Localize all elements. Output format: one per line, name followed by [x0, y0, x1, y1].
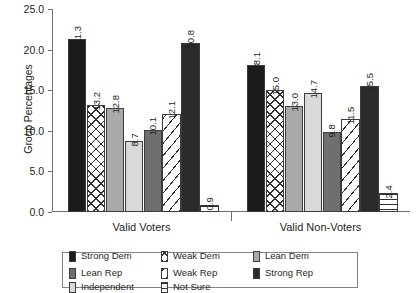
- bar: [125, 141, 143, 212]
- legend-swatch-icon: [69, 282, 76, 293]
- bar: [68, 39, 86, 212]
- bar-value-label: 20.8: [186, 30, 196, 49]
- bar: [181, 43, 199, 212]
- bar-value-label: 15.0: [270, 77, 280, 96]
- y-axis-tick-label: 5.0: [29, 166, 44, 177]
- bar: [323, 132, 341, 212]
- bar-value-label: 21.3: [72, 26, 82, 45]
- bar-value-label: 2.4: [384, 185, 394, 198]
- y-axis-tick-mark: [48, 212, 52, 213]
- legend-item: Lean Rep: [69, 265, 161, 282]
- bar: [285, 106, 303, 212]
- legend-label: Independent: [81, 282, 134, 292]
- legend-label: Strong Rep: [265, 268, 313, 278]
- group-separator: [231, 212, 232, 221]
- legend-label: Weak Rep: [173, 268, 217, 278]
- legend-item: Weak Rep: [161, 265, 253, 282]
- legend-label: Lean Dem: [265, 251, 309, 261]
- bar-value-label: 18.1: [251, 52, 261, 71]
- y-axis-tick-label: 0.0: [29, 207, 44, 218]
- bar-value-label: 0.9: [205, 197, 215, 210]
- bar: [106, 108, 124, 212]
- bars-layer: 21.313.212.88.710.112.120.80.918.115.013…: [52, 9, 410, 212]
- y-axis-tick-label: 10.0: [24, 126, 44, 137]
- legend-swatch-icon: [161, 251, 168, 262]
- bar: [162, 114, 180, 212]
- legend-swatch-icon: [253, 251, 260, 262]
- chart-legend: Strong DemWeak DemLean DemLean RepWeak R…: [62, 252, 358, 288]
- legend-item: Strong Dem: [69, 248, 161, 265]
- y-axis-tick-label: 20.0: [24, 44, 44, 55]
- bar-value-label: 15.5: [365, 73, 375, 92]
- bar: [247, 65, 265, 212]
- bar-value-label: 12.1: [167, 101, 177, 120]
- plot-area: 21.313.212.88.710.112.120.80.918.115.013…: [52, 9, 410, 212]
- legend-item: Independent: [69, 282, 161, 293]
- y-axis-tick-label: 25.0: [24, 4, 44, 15]
- legend-swatch-icon: [69, 268, 76, 279]
- bar-value-label: 8.7: [129, 134, 139, 147]
- bar-value-label: 11.5: [346, 106, 356, 124]
- legend-label: Lean Rep: [81, 268, 122, 278]
- bar: [144, 130, 162, 212]
- bar-value-label: 10.1: [148, 117, 158, 136]
- legend-swatch-icon: [161, 282, 168, 293]
- y-axis-tick-label: 15.0: [24, 85, 44, 96]
- bar-value-label: 9.8: [327, 125, 337, 138]
- bar: [304, 93, 322, 212]
- legend-item: Weak Dem: [161, 248, 253, 265]
- legend-label: Strong Dem: [81, 251, 132, 261]
- x-axis-group-label: Valid Voters: [52, 221, 231, 233]
- legend-swatch-icon: [161, 268, 168, 279]
- bar-value-label: 12.8: [110, 95, 120, 114]
- bar-chart: Group Percentages 0.05.010.015.020.025.0…: [0, 0, 418, 293]
- legend-swatch-icon: [69, 251, 76, 262]
- legend-swatch-icon: [253, 268, 260, 279]
- y-axis-ticks: 0.05.010.015.020.025.0: [0, 0, 48, 212]
- legend-item: Lean Dem: [253, 248, 363, 265]
- bar-value-label: 13.2: [91, 92, 101, 111]
- bar: [360, 86, 378, 212]
- legend-item: Not Sure: [161, 282, 253, 293]
- legend-label: Not Sure: [173, 282, 211, 292]
- bar-value-label: 13.0: [289, 93, 299, 112]
- bar: [266, 90, 284, 212]
- bar-value-label: 14.7: [308, 80, 318, 99]
- x-axis-group-label: Valid Non-Voters: [231, 221, 410, 233]
- bar: [341, 119, 359, 212]
- legend-item: Strong Rep: [253, 265, 363, 282]
- legend-label: Weak Dem: [173, 251, 220, 261]
- bar: [87, 105, 105, 212]
